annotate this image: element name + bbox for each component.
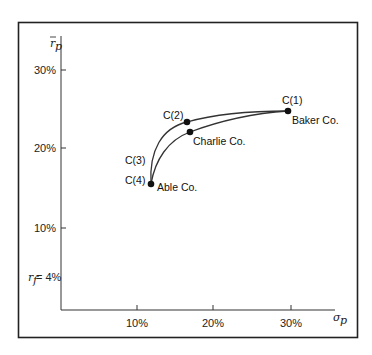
x-tick-label-20: 20% [202,317,224,329]
x-tick-label-10: 10% [126,317,148,329]
x-title-sub: p [340,314,347,327]
chart-svg: 30% 20% 10% r f = 4% r p 10% 20% 30% σ p… [0,0,372,355]
y-tick-label-30: 30% [34,64,56,76]
point-baker [285,108,292,115]
label-c3: C(3) [125,154,145,166]
label-c4: C(4) [125,174,145,186]
y-title-sub: p [55,40,62,53]
point-c2 [184,119,191,126]
label-baker: Baker Co. [292,114,339,126]
y-tick-label-20: 20% [34,142,56,154]
x-tick-label-30: 30% [280,317,302,329]
label-charlie: Charlie Co. [193,135,246,147]
label-able: Able Co. [157,181,197,193]
y-tick-label-10: 10% [34,222,56,234]
label-c1: C(1) [282,94,302,106]
y-axis-title: r p [50,37,62,53]
chart-frame [19,23,358,338]
risk-free-rate-label: r f = 4% [28,271,62,287]
label-c2: C(2) [163,109,183,121]
x-axis-title: σ p [333,311,347,327]
point-able [148,181,155,188]
lower-frontier-curve [151,111,288,184]
rf-value: = 4% [36,271,62,283]
